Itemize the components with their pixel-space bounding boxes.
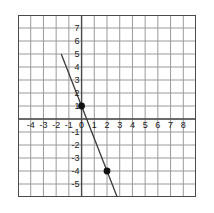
x-tick-label: 8 [181,121,186,130]
y-tick-label: 3 [75,76,80,85]
y-tick-label: 1 [75,102,80,111]
x-tick-label: 7 [168,121,173,130]
x-tick-label: 3 [117,121,122,130]
y-tick-label: 6 [75,37,80,46]
y-tick-label: -3 [72,154,80,163]
x-tick-label: 4 [130,121,135,130]
data-point-marker [104,168,111,175]
x-tick-label: -3 [39,121,47,130]
plot-area: -4-3-2-1012345678 7654321-1-2-3-4-5 [18,15,196,197]
y-tick-label: -1 [72,128,80,137]
y-tick-label: 7 [75,24,80,33]
y-tick-label: 5 [75,50,80,59]
y-tick-label: -4 [72,167,80,176]
x-tick-label: 2 [104,121,109,130]
y-tick-label: 2 [75,89,80,98]
x-tick-label: 0 [79,121,84,130]
coordinate-graph-figure: -4-3-2-1012345678 7654321-1-2-3-4-5 [0,0,214,213]
y-tick-label: 4 [75,63,80,72]
graph-svg [18,15,196,197]
x-tick-label: -2 [52,121,60,130]
x-tick-label: -4 [27,121,35,130]
x-tick-label: 5 [143,121,148,130]
y-tick-label: -5 [72,180,80,189]
y-tick-label: -2 [72,141,80,150]
x-tick-label: 6 [155,121,160,130]
x-tick-label: 1 [92,121,97,130]
